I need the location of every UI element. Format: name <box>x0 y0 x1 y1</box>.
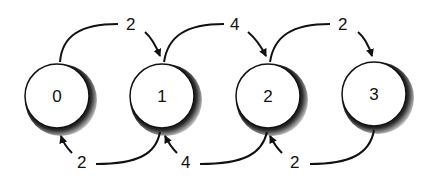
edge-0-to-1: 2 <box>60 15 160 62</box>
edge-label: 4 <box>230 15 239 34</box>
node-0: 0 <box>25 64 97 136</box>
edge-2-to-1: 4 <box>165 132 267 172</box>
node-2: 2 <box>236 64 308 136</box>
node-label: 0 <box>52 87 61 106</box>
node-3: 3 <box>342 62 414 134</box>
edge-1-to-0: 2 <box>61 132 160 172</box>
edge-3-to-2: 2 <box>270 130 374 172</box>
state-diagram: 0 1 2 3 2 4 2 2 4 <box>0 0 438 176</box>
edge-1-to-2: 4 <box>164 15 266 62</box>
edge-label: 2 <box>77 153 86 172</box>
node-1: 1 <box>130 64 202 136</box>
edge-2-to-3: 2 <box>270 15 372 62</box>
edge-label: 2 <box>126 15 135 34</box>
node-label: 1 <box>157 87 166 106</box>
edge-label: 2 <box>338 15 347 34</box>
edge-label: 2 <box>290 153 299 172</box>
edge-label: 4 <box>181 153 190 172</box>
node-label: 3 <box>369 85 378 104</box>
node-label: 2 <box>263 87 272 106</box>
